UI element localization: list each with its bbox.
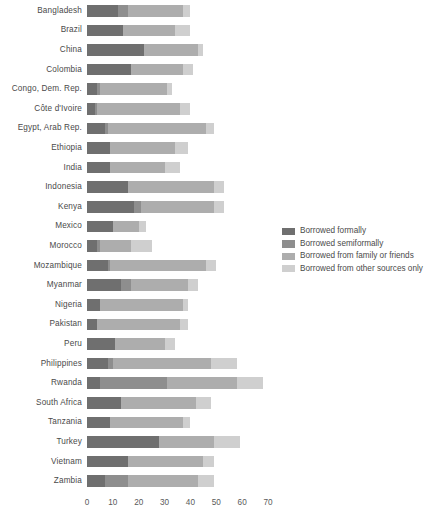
stacked-bar-chart: BangladeshBrazilChinaColombiaCongo, Dem.…	[0, 0, 439, 521]
legend-label: Borrowed from family or friends	[300, 252, 414, 260]
bar-segment-borrowed_other_sources_only	[167, 83, 172, 95]
stacked-bar	[87, 240, 152, 252]
stacked-bar	[87, 162, 180, 174]
stacked-bar	[87, 319, 188, 331]
stacked-bar	[87, 103, 190, 115]
bar-segment-borrowed_formally	[87, 299, 100, 311]
stacked-bar	[87, 83, 172, 95]
bar-segment-borrowed_semiformally	[134, 201, 142, 213]
bar-segment-borrowed_other_sources_only	[180, 319, 188, 331]
chart-row: Nigeria	[0, 295, 439, 315]
x-tick-label: 70	[263, 499, 272, 507]
chart-row: Tanzania	[0, 413, 439, 433]
x-tick-label: 30	[160, 499, 169, 507]
category-label: Myanmar	[47, 281, 82, 289]
chart-legend: Borrowed formallyBorrowed semiformallyBo…	[282, 226, 437, 276]
bar-segment-borrowed_formally	[87, 83, 97, 95]
bar-segment-borrowed_other_sources_only	[180, 103, 190, 115]
x-tick-label: 20	[134, 499, 143, 507]
bar-segment-borrowed_other_sources_only	[203, 456, 213, 468]
stacked-bar	[87, 456, 214, 468]
legend-swatch-icon	[282, 253, 295, 261]
chart-row: South Africa	[0, 393, 439, 413]
stacked-bar	[87, 397, 211, 409]
chart-row: Philippines	[0, 354, 439, 374]
stacked-bar	[87, 181, 224, 193]
chart-row: Indonesia	[0, 177, 439, 197]
bar-segment-borrowed_other_sources_only	[198, 44, 203, 56]
chart-row: India	[0, 158, 439, 178]
x-tick-label: 50	[212, 499, 221, 507]
stacked-bar	[87, 279, 198, 291]
stacked-bar	[87, 475, 214, 487]
chart-row: Turkey	[0, 432, 439, 452]
bar-segment-borrowed_formally	[87, 319, 97, 331]
bar-segment-borrowed_family_friends	[97, 103, 180, 115]
bar-segment-borrowed_family_friends	[131, 64, 183, 76]
category-label: Kenya	[58, 203, 82, 211]
x-tick-label: 10	[108, 499, 117, 507]
category-label: Pakistan	[49, 320, 82, 328]
category-label: Egypt, Arab Rep.	[18, 124, 82, 132]
chart-row: Ethiopia	[0, 138, 439, 158]
bar-segment-borrowed_family_friends	[128, 5, 182, 17]
x-tick-label: 0	[85, 499, 90, 507]
bar-segment-borrowed_formally	[87, 475, 105, 487]
bar-segment-borrowed_family_friends	[100, 240, 131, 252]
bar-segment-borrowed_formally	[87, 5, 118, 17]
bar-segment-borrowed_formally	[87, 103, 95, 115]
stacked-bar	[87, 123, 214, 135]
stacked-bar	[87, 338, 175, 350]
bar-segment-borrowed_other_sources_only	[183, 417, 191, 429]
bar-segment-borrowed_formally	[87, 64, 131, 76]
stacked-bar	[87, 64, 193, 76]
bar-segment-borrowed_other_sources_only	[175, 25, 191, 37]
category-label: Nigeria	[55, 301, 82, 309]
bar-segment-borrowed_family_friends	[110, 142, 175, 154]
category-label: Mozambique	[34, 261, 82, 269]
bar-segment-borrowed_formally	[87, 44, 144, 56]
bar-segment-borrowed_other_sources_only	[214, 181, 224, 193]
legend-swatch-icon	[282, 228, 295, 236]
category-label: India	[63, 163, 82, 171]
category-label: Peru	[64, 340, 82, 348]
chart-row: Zambia	[0, 471, 439, 491]
chart-row: Egypt, Arab Rep.	[0, 119, 439, 139]
x-axis: 010203040506070	[0, 494, 439, 514]
bar-segment-borrowed_formally	[87, 456, 128, 468]
stacked-bar	[87, 299, 188, 311]
legend-item: Borrowed from family or friends	[282, 251, 437, 262]
bar-segment-borrowed_family_friends	[110, 260, 206, 272]
legend-item: Borrowed semiformally	[282, 238, 437, 249]
stacked-bar	[87, 44, 203, 56]
bar-segment-borrowed_family_friends	[108, 123, 206, 135]
bar-segment-borrowed_other_sources_only	[211, 358, 237, 370]
bar-segment-borrowed_formally	[87, 240, 97, 252]
bar-segment-borrowed_family_friends	[121, 397, 196, 409]
category-label: Congo, Dem. Rep.	[12, 85, 82, 93]
chart-row: Rwanda	[0, 373, 439, 393]
bar-segment-borrowed_family_friends	[131, 279, 188, 291]
bar-segment-borrowed_family_friends	[167, 377, 237, 389]
bar-segment-borrowed_family_friends	[113, 221, 139, 233]
category-label: Philippines	[41, 359, 82, 367]
chart-row: Brazil	[0, 21, 439, 41]
category-label: Brazil	[61, 26, 82, 34]
chart-row: Bangladesh	[0, 1, 439, 21]
bar-segment-borrowed_formally	[87, 377, 100, 389]
bar-segment-borrowed_formally	[87, 25, 123, 37]
legend-label: Borrowed from other sources only	[300, 265, 423, 273]
bar-segment-borrowed_family_friends	[123, 25, 175, 37]
legend-label: Borrowed semiformally	[300, 240, 383, 248]
bar-segment-borrowed_family_friends	[100, 299, 183, 311]
bar-segment-borrowed_family_friends	[110, 417, 182, 429]
chart-row: Pakistan	[0, 315, 439, 335]
bar-segment-borrowed_other_sources_only	[183, 299, 188, 311]
bar-segment-borrowed_semiformally	[121, 279, 131, 291]
bar-segment-borrowed_other_sources_only	[131, 240, 152, 252]
legend-item: Borrowed from other sources only	[282, 263, 437, 274]
bar-segment-borrowed_other_sources_only	[198, 475, 214, 487]
stacked-bar	[87, 377, 263, 389]
bar-segment-borrowed_formally	[87, 358, 108, 370]
bar-segment-borrowed_other_sources_only	[214, 436, 240, 448]
